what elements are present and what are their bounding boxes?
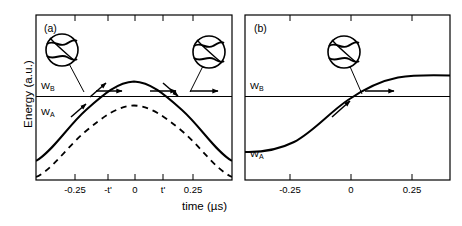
panel-a-left-tangent-arrow (71, 104, 86, 117)
panel-b-inset (328, 36, 362, 94)
spinning-sphere-icon (46, 34, 78, 66)
spinning-sphere-icon (328, 36, 360, 68)
figure-root: Energy (a.u.) time (µs) (a) WB WA -0.25 … (0, 0, 462, 226)
plot-canvas (0, 0, 462, 226)
panel-a-left-inset (46, 34, 84, 92)
panel-a-solid-energy-curve (36, 82, 232, 162)
spinning-sphere-icon (193, 36, 225, 68)
panel-a-right-tangent-arrow (163, 83, 178, 96)
panel-a-right-inset (190, 36, 225, 92)
panel-b-solid-energy-curve (245, 75, 450, 152)
panel-a-dashed-energy-curve (36, 106, 232, 178)
